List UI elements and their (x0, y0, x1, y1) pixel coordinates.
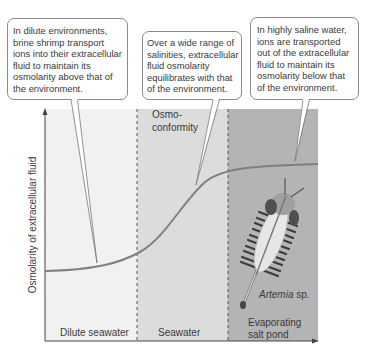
callout-pointer-3 (295, 96, 310, 161)
callout-pointer-2 (196, 96, 220, 185)
osmoregulation-figure: Osmolarity of extracellular fluid Osmo- … (0, 0, 367, 350)
callout-pointers (0, 0, 367, 350)
callout-pointer-1 (71, 96, 97, 263)
